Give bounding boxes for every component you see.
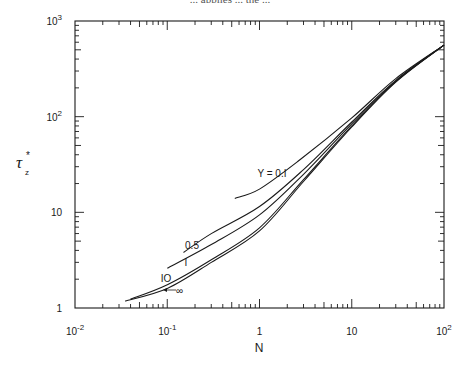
x-tick-label: 10-2 [66, 323, 85, 337]
curve-label: Y = 0.I [257, 168, 286, 179]
y-tick-label: 103 [46, 13, 62, 27]
plot-frame [75, 21, 444, 308]
x-tick-label: 10-1 [158, 323, 177, 337]
svg-text:τ: τ [16, 153, 23, 172]
y-axis-label: τ z * [16, 150, 30, 177]
curve-labels: Y = 0.I0.5IIO∞ [161, 168, 287, 296]
x-tick-label: 1 [257, 326, 263, 337]
curve-label: I [185, 257, 188, 268]
tick-labels: 10-210-1110102110102103 [46, 13, 452, 337]
x-tick-label: 102 [436, 323, 452, 337]
x-axis-label: N [255, 341, 264, 355]
curve-label: ∞ [176, 285, 183, 296]
svg-text:*: * [26, 150, 30, 161]
curve-label: 0.5 [185, 240, 199, 251]
curve-y-10 [131, 45, 445, 299]
log-log-chart: 10-210-1110102110102103 Y = 0.I0.5IIO∞ N… [0, 0, 460, 369]
y-tick-label: 1 [56, 303, 62, 314]
arrowhead-icon [163, 288, 167, 292]
axis-ticks [75, 21, 444, 308]
y-tick-label: 102 [46, 109, 62, 123]
x-tick-label: 10 [346, 326, 358, 337]
curve-label: IO [161, 273, 172, 284]
axes-frame [75, 21, 444, 308]
y-tick-label: 10 [51, 207, 63, 218]
svg-text:z: z [25, 168, 29, 177]
